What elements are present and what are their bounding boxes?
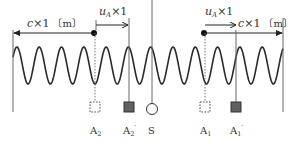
source-marker	[147, 104, 158, 115]
a1-label: A1	[199, 125, 211, 138]
a2-prime-marker	[124, 102, 134, 112]
a2-prime-label: A2′	[122, 124, 136, 138]
a2-label: A2	[89, 125, 101, 138]
right-velocity-label: uA×1	[205, 5, 233, 19]
right-emission-point	[201, 30, 207, 36]
sound-wave	[13, 47, 283, 84]
a1-marker	[200, 102, 210, 112]
a1-prime-marker	[231, 102, 241, 112]
a1-prime-label: A1′	[229, 124, 243, 138]
doppler-diagram: c×1〔m〕 uA×1 uA×1 c×1〔m〕 A2 A2′ S A1 A1′	[0, 0, 294, 147]
left-emission-point	[91, 30, 97, 36]
right-distance-label: c×1〔m〕	[238, 17, 293, 30]
a2-marker	[90, 102, 100, 112]
left-distance-label: c×1〔m〕	[27, 17, 82, 30]
left-velocity-label: uA×1	[99, 5, 127, 19]
source-label: S	[148, 125, 155, 136]
